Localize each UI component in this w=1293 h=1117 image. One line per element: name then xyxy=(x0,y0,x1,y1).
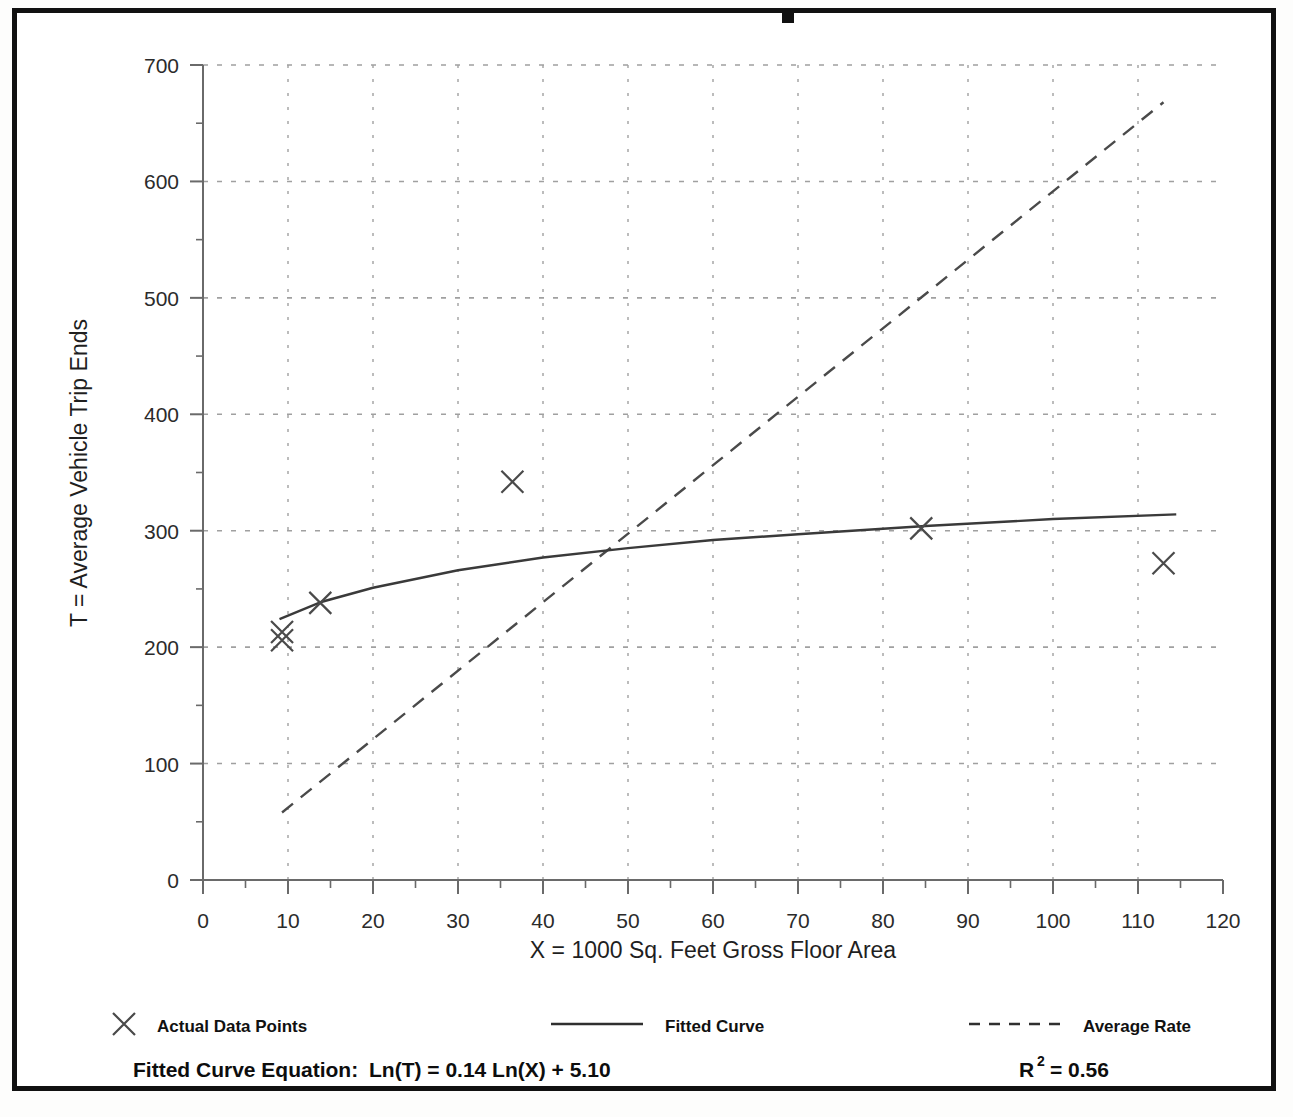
series-average-rate xyxy=(282,102,1163,812)
chart-legend: Actual Data Points Fitted Curve Average … xyxy=(113,1013,1191,1036)
x-tick-label: 0 xyxy=(197,909,209,932)
y-tick-label: 200 xyxy=(144,636,179,659)
y-tick-label: 600 xyxy=(144,170,179,193)
x-tick-label: 100 xyxy=(1035,909,1070,932)
y-tick-label: 0 xyxy=(167,869,179,892)
page-root: 0100200300400500600700 01020304050607080… xyxy=(0,0,1293,1117)
data-point-marker xyxy=(910,517,932,539)
footer-equation-row: Fitted Curve Equation: Ln(T) = 0.14 Ln(X… xyxy=(133,1053,1109,1081)
trip-generation-scatter-chart: 0100200300400500600700 01020304050607080… xyxy=(17,13,1281,1096)
x-tick-label: 110 xyxy=(1121,909,1154,932)
y-tick-label: 500 xyxy=(144,287,179,310)
data-point-marker xyxy=(309,592,331,614)
x-marker-icon xyxy=(113,1013,135,1035)
x-tick-label: 80 xyxy=(871,909,894,932)
r-squared-value: = 0.56 xyxy=(1050,1058,1109,1081)
r-squared-label: R xyxy=(1019,1058,1034,1081)
grid-horizontal xyxy=(203,65,1223,764)
legend-item-fitted-curve: Fitted Curve xyxy=(551,1017,764,1036)
x-tick-label: 120 xyxy=(1205,909,1240,932)
x-tick-label: 30 xyxy=(446,909,469,932)
legend-item-actual-data-points: Actual Data Points xyxy=(113,1013,307,1036)
chart-frame-border: 0100200300400500600700 01020304050607080… xyxy=(12,8,1276,1091)
data-point-marker xyxy=(1153,552,1175,574)
x-tick-label: 40 xyxy=(531,909,554,932)
x-tick-label: 20 xyxy=(361,909,384,932)
chart-canvas: 0100200300400500600700 01020304050607080… xyxy=(17,13,1281,1096)
fitted-curve-equation-label: Fitted Curve Equation: xyxy=(133,1058,358,1081)
r-squared-exponent: 2 xyxy=(1037,1053,1045,1069)
data-point-marker xyxy=(501,471,523,493)
y-tick-label: 400 xyxy=(144,403,179,426)
fitted-curve-equation-value: Ln(T) = 0.14 Ln(X) + 5.10 xyxy=(369,1058,611,1081)
grid-vertical xyxy=(288,65,1138,880)
y-tick-label: 100 xyxy=(144,753,179,776)
x-axis-title: X = 1000 Sq. Feet Gross Floor Area xyxy=(530,937,896,963)
series-actual-data-points xyxy=(271,471,1174,651)
x-tick-label: 60 xyxy=(701,909,724,932)
x-tick-label: 90 xyxy=(956,909,979,932)
y-axis-ticks xyxy=(190,65,203,880)
y-tick-label: 300 xyxy=(144,520,179,543)
legend-label-actual-data-points: Actual Data Points xyxy=(157,1017,307,1036)
legend-item-average-rate: Average Rate xyxy=(969,1017,1191,1036)
x-axis-ticks xyxy=(203,880,1223,894)
y-axis-tick-labels: 0100200300400500600700 xyxy=(144,54,179,892)
y-axis-title: T = Average Vehicle Trip Ends xyxy=(66,319,92,627)
x-tick-label: 10 xyxy=(276,909,299,932)
x-tick-label: 70 xyxy=(786,909,809,932)
x-axis-tick-labels: 0102030405060708090100110120 xyxy=(197,909,1240,932)
legend-label-average-rate: Average Rate xyxy=(1083,1017,1191,1036)
x-tick-label: 50 xyxy=(616,909,639,932)
y-tick-label: 700 xyxy=(144,54,179,77)
legend-label-fitted-curve: Fitted Curve xyxy=(665,1017,764,1036)
